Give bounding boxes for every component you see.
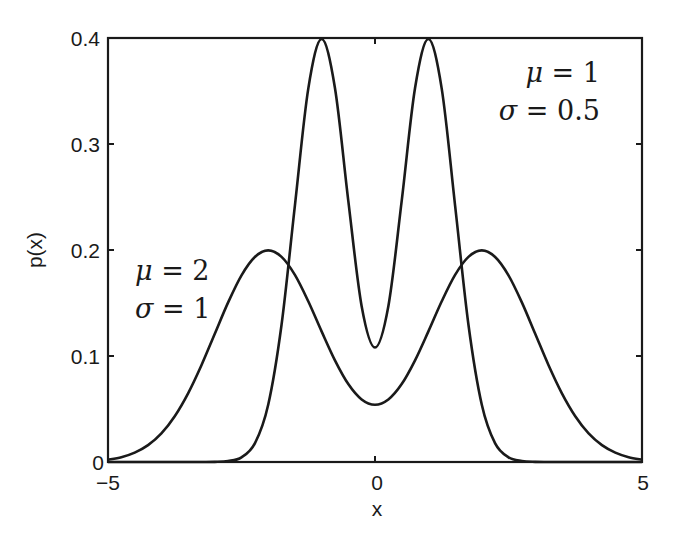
x-axis-label: x (372, 497, 383, 520)
chart: 0.4 0.3 0.2 0.1 0 −5 0 5 x p(x) μ = 1 σ … (0, 0, 677, 548)
x-tick-label-neg5: −5 (96, 471, 120, 494)
y-tick-label-0.2: 0.2 (71, 239, 100, 262)
annotation-wide-mu: μ = 2 (135, 255, 210, 286)
annotation-wide-sigma: σ = 1 (135, 293, 210, 324)
y-axis-label: p(x) (23, 232, 46, 268)
x-tick-label-5: 5 (637, 471, 649, 494)
annotation-narrow-sigma: σ = 0.5 (499, 95, 600, 126)
y-tick-label-0.1: 0.1 (71, 345, 100, 368)
y-tick-label-0.3: 0.3 (71, 133, 100, 156)
y-tick-label-0.4: 0.4 (71, 27, 101, 50)
annotation-wide: μ = 2 σ = 1 (135, 255, 210, 324)
x-tick-label-0: 0 (371, 471, 383, 494)
annotation-narrow-mu: μ = 1 (525, 57, 600, 88)
annotation-narrow: μ = 1 σ = 0.5 (499, 57, 600, 126)
